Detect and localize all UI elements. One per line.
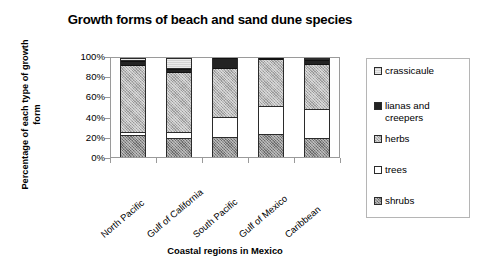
x-axis-tick-mark bbox=[340, 158, 341, 163]
bar-gulf-of-mexico[interactable] bbox=[258, 58, 284, 157]
bar-segment-herbs[interactable] bbox=[259, 60, 283, 107]
stacked-bar-chart: Growth forms of beach and sand dune spec… bbox=[0, 0, 479, 266]
chart-legend: crassicaulelianas and creepersherbstrees… bbox=[366, 58, 470, 218]
bar-segment-herbs[interactable] bbox=[121, 66, 145, 133]
y-axis-tick-label: 100% bbox=[61, 52, 105, 62]
y-axis-tick-label: 40% bbox=[61, 113, 105, 123]
x-axis-tick-label: Gulf of Mexico bbox=[237, 193, 289, 239]
x-axis-tick-mark bbox=[110, 158, 111, 163]
bar-gulf-of-california[interactable] bbox=[166, 58, 192, 157]
legend-item-trees[interactable]: trees bbox=[374, 164, 407, 176]
bar-segment-trees[interactable] bbox=[305, 110, 329, 139]
bar-segment-shrubs[interactable] bbox=[167, 139, 191, 157]
trees-swatch-icon bbox=[374, 166, 382, 174]
x-axis-tick-mark bbox=[156, 158, 157, 163]
herbs-swatch-icon bbox=[374, 135, 382, 143]
bar-south-pacific[interactable] bbox=[212, 58, 238, 157]
bar-north-pacific[interactable] bbox=[120, 58, 146, 157]
bar-segment-crassicaule[interactable] bbox=[167, 58, 191, 69]
bar-segment-lianas-and-creepers[interactable] bbox=[213, 58, 237, 69]
bar-caribbean[interactable] bbox=[304, 58, 330, 157]
y-axis-tick-label: 20% bbox=[61, 133, 105, 143]
bar-segment-trees[interactable] bbox=[259, 107, 283, 136]
bar-segment-herbs[interactable] bbox=[213, 69, 237, 119]
x-axis-tick-label: North Pacific bbox=[99, 198, 146, 240]
legend-item-label: shrubs bbox=[385, 195, 414, 207]
x-axis-tick-label: Caribbean bbox=[283, 204, 323, 239]
y-axis-tick-label: 0% bbox=[61, 153, 105, 163]
bar-segment-trees[interactable] bbox=[213, 118, 237, 138]
plot-area bbox=[110, 57, 340, 158]
bar-segment-shrubs[interactable] bbox=[259, 135, 283, 157]
bar-segment-herbs[interactable] bbox=[305, 65, 329, 110]
bar-segment-shrubs[interactable] bbox=[121, 136, 145, 157]
bar-segment-shrubs[interactable] bbox=[213, 138, 237, 157]
bar-segment-shrubs[interactable] bbox=[305, 139, 329, 157]
crassicaule-swatch-icon bbox=[374, 67, 382, 75]
legend-item-lianas-and-creepers[interactable]: lianas and creepers bbox=[374, 100, 469, 123]
x-axis-tick-mark bbox=[202, 158, 203, 163]
legend-item-label: lianas and creepers bbox=[385, 100, 469, 123]
x-axis-tick-mark bbox=[294, 158, 295, 163]
bar-segment-herbs[interactable] bbox=[167, 73, 191, 133]
x-axis-tick-label: South Pacific bbox=[191, 197, 239, 240]
legend-item-herbs[interactable]: herbs bbox=[374, 133, 410, 145]
shrubs-swatch-icon bbox=[374, 197, 382, 205]
x-axis-tick-mark bbox=[248, 158, 249, 163]
lianas-swatch-icon bbox=[374, 102, 382, 110]
legend-item-label: crassicaule bbox=[385, 65, 434, 77]
y-axis-title: Percentage of each type of growth form bbox=[20, 35, 43, 195]
legend-item-crassicaule[interactable]: crassicaule bbox=[374, 65, 434, 77]
y-axis-tick-label: 60% bbox=[61, 92, 105, 102]
chart-title: Growth forms of beach and sand dune spec… bbox=[0, 12, 420, 27]
legend-item-shrubs[interactable]: shrubs bbox=[374, 195, 414, 207]
y-axis-tick-label: 80% bbox=[61, 72, 105, 82]
legend-item-label: trees bbox=[385, 164, 407, 176]
x-axis-title: Coastal regions in Mexico bbox=[110, 245, 340, 256]
legend-item-label: herbs bbox=[385, 133, 410, 145]
